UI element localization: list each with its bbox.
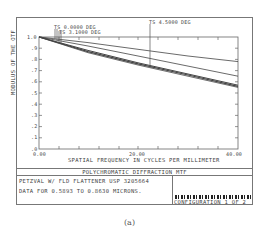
info-title: POLYCHROMATIC DIFFRACTION MTF <box>16 168 253 176</box>
mtf-curves <box>39 37 238 87</box>
y-tick-label: 1.0 <box>27 34 37 40</box>
x-tick-label: 40.00 <box>226 151 242 157</box>
figure-caption: (a) <box>124 218 135 227</box>
y-tick-label: .6 <box>31 78 37 84</box>
annotation-ts-4-5: TS 4.5000 DEG <box>149 19 191 25</box>
curve-1 <box>39 37 238 62</box>
info-line-2: DATA FOR 0.5893 TO 0.8630 MICRONS. <box>19 188 142 194</box>
y-tick-label: .4 <box>31 101 37 107</box>
x-ticks <box>59 37 218 149</box>
curve-2 <box>39 37 238 76</box>
configuration-label: CONFIGURATION 1 OF 2 <box>174 199 246 205</box>
y-tick-label: .7 <box>31 67 37 73</box>
y-tick-label: .8 <box>31 56 37 62</box>
y-tick-label: .3 <box>31 112 37 118</box>
y-axis-label: MODULUS OF THE OTF <box>10 30 16 95</box>
y-tick-label: .5 <box>31 90 37 96</box>
info-line-1: PETZVAL W/ FLD FLATTENER USP 3205664 <box>19 178 149 184</box>
y-tick-label: .9 <box>31 45 37 51</box>
x-axis-label: SPATIAL FREQUENCY IN CYCLES PER MILLIMET… <box>68 157 220 163</box>
annotation-ts-3-1: TS 3.1000 DEG <box>59 29 101 35</box>
x-tick-label: 0.00 <box>33 151 46 157</box>
y-ticks <box>39 37 238 138</box>
y-tick-label: .1 <box>31 134 37 140</box>
curve-3 <box>39 37 238 85</box>
plot-area <box>39 37 238 149</box>
y-tick-label: .2 <box>31 123 37 129</box>
